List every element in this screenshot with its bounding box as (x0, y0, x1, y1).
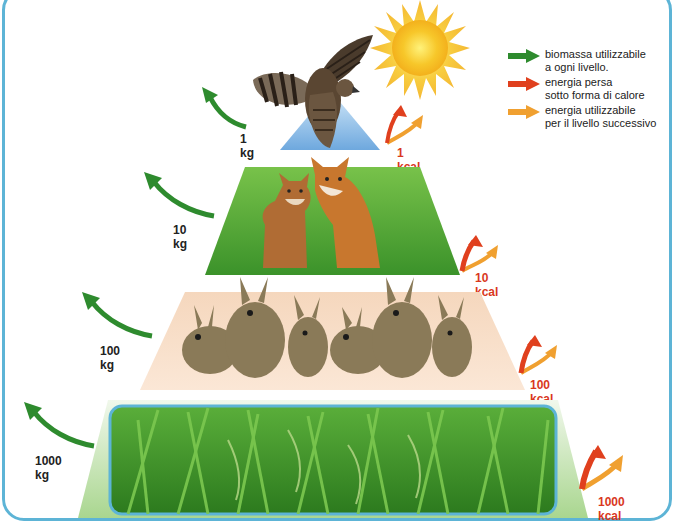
legend-text-line: biomassa utilizzabile (545, 48, 646, 61)
legend-item-usable-energy: energia utilizzabile per il livello succ… (508, 104, 678, 130)
energy-arrow-icon (578, 445, 626, 493)
biomass-label: 10 kg (173, 223, 187, 251)
legend-item-heat: energia persa sotto forma di calore (508, 76, 678, 102)
biomass-label: 100 kg (100, 344, 120, 372)
energy-arrow-icon (383, 105, 425, 145)
legend-text-line: energia persa (545, 76, 645, 89)
legend-text-line: sotto forma di calore (545, 89, 645, 102)
sun-icon (370, 0, 470, 100)
legend-text-line: a ogni livello. (545, 61, 646, 74)
biomass-arrow-icon (140, 170, 220, 220)
orange-arrow-icon (508, 105, 540, 119)
energy-label: 1000 kcal (598, 495, 625, 523)
biomass-label: 1000 kg (35, 454, 62, 482)
legend-item-biomass: biomassa utilizzabile a ogni livello. (508, 48, 678, 74)
energy-arrow-icon (517, 335, 559, 377)
legend: biomassa utilizzabile a ogni livello. en… (508, 48, 678, 132)
rabbits-image (180, 275, 480, 383)
red-arrow-icon (508, 77, 540, 91)
foxes-image (245, 155, 415, 270)
hawk-image (245, 30, 385, 150)
biomass-arrow-icon (200, 85, 250, 130)
legend-text-line: energia utilizzabile (545, 104, 656, 117)
biomass-arrow-icon (20, 400, 100, 450)
legend-text-line: per il livello successivo (545, 117, 656, 130)
biomass-arrow-icon (78, 290, 158, 340)
green-arrow-icon (508, 49, 540, 63)
energy-arrow-icon (458, 235, 500, 275)
rice-tier-background (78, 400, 588, 518)
